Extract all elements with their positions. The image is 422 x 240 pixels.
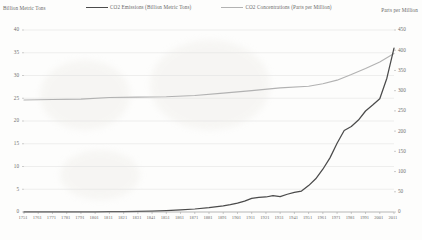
x-tick-label: 1991 xyxy=(360,216,369,221)
x-tick-label: 1811 xyxy=(104,216,113,221)
left-tick-label: 5 xyxy=(3,187,19,192)
x-tick-label: 1921 xyxy=(260,216,269,221)
x-tick-label: 1931 xyxy=(275,216,284,221)
right-tick-label: 50 xyxy=(398,189,414,194)
x-tick-label: 1821 xyxy=(118,216,127,221)
x-tick-label: 1961 xyxy=(317,216,326,221)
x-tick-label: 2011 xyxy=(388,216,397,221)
plot-area: 4035302520151050 45040035030025020015010… xyxy=(0,0,422,240)
series-line-emissions xyxy=(24,48,394,212)
right-tick-label: 200 xyxy=(398,129,414,134)
left-tick-marks xyxy=(22,30,24,212)
x-tick-label: 1951 xyxy=(303,216,312,221)
x-tick-label: 1981 xyxy=(346,216,355,221)
left-tick-label: 15 xyxy=(3,141,19,146)
x-tick-label: 1881 xyxy=(203,216,212,221)
left-tick-label: 20 xyxy=(3,118,19,123)
right-tick-label: 350 xyxy=(398,68,414,73)
right-tick-label: 150 xyxy=(398,149,414,154)
x-tick-label: 1861 xyxy=(175,216,184,221)
right-tick-label: 100 xyxy=(398,169,414,174)
x-tick-label: 2001 xyxy=(374,216,383,221)
x-tick-label: 1971 xyxy=(331,216,340,221)
x-tick-label: 1891 xyxy=(218,216,227,221)
x-tick-label: 1911 xyxy=(246,216,255,221)
right-tick-marks xyxy=(394,30,396,212)
x-tick-label: 1841 xyxy=(146,216,155,221)
x-tick-label: 1941 xyxy=(289,216,298,221)
x-tick-label: 1781 xyxy=(61,216,70,221)
left-tick-label: 25 xyxy=(3,96,19,101)
right-tick-label: 300 xyxy=(398,88,414,93)
x-tick-label: 1751 xyxy=(18,216,27,221)
gridlines xyxy=(24,30,394,212)
x-tick-label: 1801 xyxy=(90,216,99,221)
right-tick-label: 250 xyxy=(398,108,414,113)
left-tick-label: 30 xyxy=(3,73,19,78)
x-tick-label: 1771 xyxy=(47,216,56,221)
series-line-concentrations xyxy=(24,53,394,100)
right-tick-label: 450 xyxy=(398,27,414,32)
co2-chart: Billion Metric Tons Parts per Million CO… xyxy=(0,0,422,240)
x-tick-label: 1851 xyxy=(161,216,170,221)
x-tick-label: 1791 xyxy=(75,216,84,221)
x-tick-label: 1831 xyxy=(132,216,141,221)
x-tick-label: 1871 xyxy=(189,216,198,221)
right-tick-label: 400 xyxy=(398,48,414,53)
left-tick-label: 35 xyxy=(3,50,19,55)
left-tick-label: 0 xyxy=(3,209,19,214)
plot-svg xyxy=(0,0,422,240)
right-tick-label: 0 xyxy=(398,209,414,214)
left-tick-label: 40 xyxy=(3,27,19,32)
left-tick-label: 10 xyxy=(3,164,19,169)
x-tick-label: 1901 xyxy=(232,216,241,221)
x-tick-label: 1761 xyxy=(33,216,42,221)
